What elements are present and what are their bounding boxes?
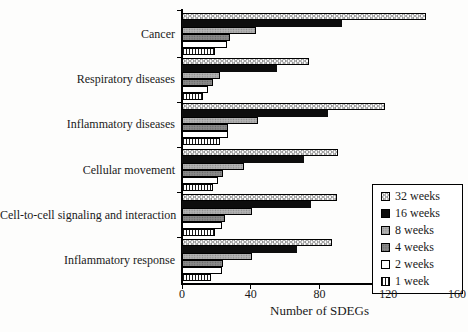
bar-1-week-cancer: [182, 48, 215, 55]
bar-8-weeks-respiratory-diseases: [182, 72, 220, 79]
bar-16-weeks-inflammatory-response: [182, 246, 297, 253]
legend-label-2-weeks: 2 weeks: [395, 257, 434, 272]
bar-1-week-inflammatory-response: [182, 274, 211, 281]
bar-4-weeks-inflammatory-response: [182, 260, 223, 267]
legend-item-8-weeks: 8 weeks: [381, 223, 460, 238]
legend-swatch-32-weeks: [381, 192, 390, 201]
bar-16-weeks-inflammatory-diseases: [182, 110, 328, 117]
bar-2-weeks-inflammatory-diseases: [182, 131, 228, 138]
bar-2-weeks-cellular-movement: [182, 177, 218, 184]
bar-32-weeks-inflammatory-diseases: [182, 103, 385, 110]
category-label-cellular-movement: Cellular movement: [0, 162, 175, 177]
bar-1-week-respiratory-diseases: [182, 93, 203, 100]
legend-label-8-weeks: 8 weeks: [395, 223, 434, 238]
category-label-inflammatory-diseases: Inflammatory diseases: [0, 117, 175, 132]
bar-16-weeks-cancer: [182, 20, 342, 27]
x-tick-label-80: 80: [314, 287, 326, 302]
legend-swatch-4-weeks: [381, 243, 390, 252]
bar-1-week-cellular-movement: [182, 184, 213, 191]
bar-8-weeks-cell-to-cell-signaling-and-interaction: [182, 208, 252, 215]
bar-2-weeks-respiratory-diseases: [182, 86, 208, 93]
legend-label-16-weeks: 16 weeks: [395, 206, 440, 221]
bar-1-week-inflammatory-diseases: [182, 138, 220, 145]
bar-2-weeks-inflammatory-response: [182, 267, 222, 274]
legend-swatch-16-weeks: [381, 209, 390, 218]
legend-swatch-2-weeks: [381, 260, 390, 269]
bar-32-weeks-cellular-movement: [182, 149, 338, 156]
bar-4-weeks-cell-to-cell-signaling-and-interaction: [182, 215, 225, 222]
bar-32-weeks-respiratory-diseases: [182, 58, 309, 65]
x-axis-title: Number of SDEGs: [182, 303, 457, 319]
bar-8-weeks-cellular-movement: [182, 163, 244, 170]
bar-8-weeks-inflammatory-response: [182, 253, 252, 260]
bar-32-weeks-cancer: [182, 13, 426, 20]
legend-item-32-weeks: 32 weeks: [381, 189, 460, 204]
legend-item-2-weeks: 2 weeks: [381, 257, 460, 272]
x-tick-label-160: 160: [448, 287, 466, 302]
bar-2-weeks-cell-to-cell-signaling-and-interaction: [182, 222, 222, 229]
legend-swatch-8-weeks: [381, 226, 390, 235]
bar-8-weeks-inflammatory-diseases: [182, 117, 258, 124]
legend-label-4-weeks: 4 weeks: [395, 240, 434, 255]
legend-label-1-week: 1 week: [395, 274, 429, 289]
legend: 32 weeks16 weeks8 weeks4 weeks2 weeks1 w…: [372, 184, 463, 294]
bar-chart-figure: CancerRespiratory diseasesInflammatory d…: [0, 0, 468, 332]
category-label-cell-to-cell-signaling-and-interaction: Cell-to-cell signaling and interaction: [0, 207, 175, 222]
bar-4-weeks-cancer: [182, 34, 230, 41]
bar-16-weeks-cell-to-cell-signaling-and-interaction: [182, 201, 311, 208]
x-tick-label-0: 0: [179, 287, 185, 302]
legend-label-32-weeks: 32 weeks: [395, 189, 440, 204]
legend-swatch-1-week: [381, 277, 390, 286]
bar-4-weeks-cellular-movement: [182, 170, 223, 177]
category-label-cancer: Cancer: [0, 27, 175, 42]
legend-item-16-weeks: 16 weeks: [381, 206, 460, 221]
bar-16-weeks-respiratory-diseases: [182, 65, 277, 72]
bar-4-weeks-inflammatory-diseases: [182, 124, 228, 131]
bar-16-weeks-cellular-movement: [182, 156, 304, 163]
legend-item-4-weeks: 4 weeks: [381, 240, 460, 255]
category-label-respiratory-diseases: Respiratory diseases: [0, 72, 175, 87]
category-labels: CancerRespiratory diseasesInflammatory d…: [0, 0, 178, 332]
bar-32-weeks-inflammatory-response: [182, 239, 332, 246]
x-tick-label-120: 120: [379, 287, 397, 302]
x-tick-label-40: 40: [245, 287, 257, 302]
bar-8-weeks-cancer: [182, 27, 256, 34]
bar-1-week-cell-to-cell-signaling-and-interaction: [182, 229, 215, 236]
bar-4-weeks-respiratory-diseases: [182, 79, 213, 86]
category-label-inflammatory-response: Inflammatory response: [0, 253, 175, 268]
bar-32-weeks-cell-to-cell-signaling-and-interaction: [182, 194, 337, 201]
bar-2-weeks-cancer: [182, 41, 227, 48]
